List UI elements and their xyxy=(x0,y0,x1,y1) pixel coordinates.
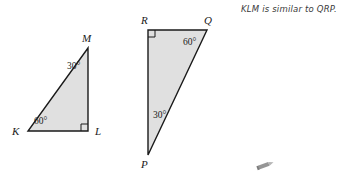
vertex-label-m: M xyxy=(82,33,91,44)
geometry-worksheet-canvas: M K L 30° 60° R Q P 60° 30° KLM is simil… xyxy=(0,0,346,191)
vertex-label-p: P xyxy=(141,159,148,170)
angle-label-p: 30° xyxy=(153,111,166,121)
vertex-label-r: R xyxy=(141,15,148,26)
similarity-statement-text: KLM is similar to QRP. xyxy=(241,4,337,14)
pencil-icon xyxy=(256,158,276,172)
triangle-pqr-polygon xyxy=(148,30,207,155)
geometry-figures xyxy=(0,0,346,191)
angle-label-q: 60° xyxy=(183,38,196,48)
angle-label-k: 60° xyxy=(34,117,47,127)
vertex-label-q: Q xyxy=(204,15,212,26)
angle-label-m: 30° xyxy=(67,62,80,72)
triangle-pqr-shape xyxy=(148,30,207,155)
vertex-label-l: L xyxy=(95,126,101,137)
vertex-label-k: K xyxy=(12,126,19,137)
